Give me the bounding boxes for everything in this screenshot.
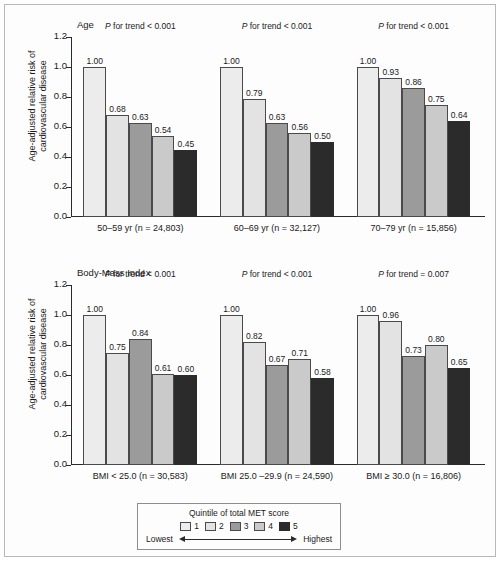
legend-items: 12345 bbox=[146, 521, 332, 531]
bar-quintile-4: 0.54 bbox=[152, 136, 175, 217]
y-axis-label-line1: Age-adjusted relative risk of bbox=[27, 50, 37, 161]
bar-quintile-5: 0.50 bbox=[311, 142, 334, 217]
bar-quintile-4: 0.80 bbox=[425, 345, 448, 465]
figure-frame: Age Age-adjusted relative risk of cardio… bbox=[4, 4, 496, 557]
bar-quintile-3: 0.63 bbox=[129, 123, 152, 218]
legend-item-2: 2 bbox=[205, 521, 224, 531]
bar-group-bmi-1: P for trend < 0.0011.000.820.670.710.58B… bbox=[220, 285, 334, 465]
y-axis-line bbox=[71, 285, 72, 465]
x-axis-group-label: 70–79 yr (n = 15,856) bbox=[343, 223, 485, 233]
legend-item-3: 3 bbox=[230, 521, 249, 531]
x-axis-group-label: 60–69 yr (n = 32,127) bbox=[206, 223, 348, 233]
bar-value-label: 0.71 bbox=[291, 348, 308, 358]
legend-scale: Lowest Highest bbox=[146, 534, 332, 544]
bar-value-label: 0.63 bbox=[269, 112, 286, 122]
bar-quintile-2: 0.75 bbox=[106, 353, 129, 466]
bar-value-label: 0.80 bbox=[428, 334, 445, 344]
bar-quintile-5: 0.64 bbox=[448, 121, 471, 217]
bar-quintile-4: 0.71 bbox=[288, 359, 311, 466]
bar-quintile-2: 0.79 bbox=[243, 99, 266, 218]
bar-quintile-3: 0.67 bbox=[266, 365, 289, 466]
y-tick-label: 0.6 bbox=[54, 368, 67, 379]
p-for-trend-annotation: P for trend < 0.001 bbox=[83, 269, 197, 279]
bar-value-label: 0.63 bbox=[132, 112, 149, 122]
panel-bmi: Body-Mass Index Age-adjusted relative ri… bbox=[5, 263, 497, 513]
y-tick-label: 0.2 bbox=[54, 428, 67, 439]
bars: 1.000.960.730.800.65 bbox=[357, 285, 471, 465]
x-axis-group-label: BMI 25.0 –29.9 (n = 24,590) bbox=[206, 471, 348, 481]
y-tick-label: 0.0 bbox=[54, 210, 67, 221]
bar-value-label: 0.75 bbox=[109, 342, 126, 352]
bar-quintile-2: 0.68 bbox=[106, 115, 129, 217]
bar-quintile-4: 0.75 bbox=[425, 105, 448, 218]
bar-group-age-2: P for trend < 0.0011.000.930.860.750.647… bbox=[357, 37, 471, 217]
y-tick-label: 0.8 bbox=[54, 90, 67, 101]
bar-group-bmi-2: P for trend = 0.0071.000.960.730.800.65B… bbox=[357, 285, 471, 465]
panel-age: Age Age-adjusted relative risk of cardio… bbox=[5, 9, 497, 265]
bar-quintile-2: 0.93 bbox=[379, 78, 402, 218]
bar-value-label: 0.60 bbox=[178, 364, 195, 374]
p-for-trend-annotation: P for trend < 0.001 bbox=[220, 21, 334, 31]
y-tick-label: 1.2 bbox=[54, 30, 67, 41]
x-axis-group-label: 50–59 yr (n = 24,803) bbox=[69, 223, 211, 233]
bar-quintile-1: 1.00 bbox=[220, 315, 243, 465]
bar-quintile-2: 0.82 bbox=[243, 342, 266, 465]
bar-value-label: 1.00 bbox=[360, 56, 377, 66]
bar-value-label: 0.93 bbox=[383, 67, 400, 77]
legend: Quintile of total MET score 12345 Lowest… bbox=[137, 503, 341, 550]
y-axis-label-line2: cardiovascular disease bbox=[38, 60, 48, 152]
y-tick-label: 0.8 bbox=[54, 338, 67, 349]
bar-value-label: 1.00 bbox=[87, 304, 104, 314]
legend-item-5: 5 bbox=[279, 521, 298, 531]
legend-item-label: 1 bbox=[194, 521, 199, 531]
bar-value-label: 1.00 bbox=[360, 304, 377, 314]
legend-highest-label: Highest bbox=[303, 534, 332, 544]
bar-value-label: 0.73 bbox=[405, 345, 422, 355]
bar-quintile-5: 0.58 bbox=[311, 378, 334, 465]
bar-quintile-5: 0.65 bbox=[448, 368, 471, 466]
x-axis-group-label: BMI < 25.0 (n = 30,583) bbox=[69, 471, 211, 481]
bar-value-label: 0.84 bbox=[132, 328, 149, 338]
legend-item-label: 2 bbox=[219, 521, 224, 531]
bar-quintile-3: 0.63 bbox=[266, 123, 289, 218]
legend-swatch-icon bbox=[279, 522, 290, 531]
bar-group-age-1: P for trend < 0.0011.000.790.630.560.506… bbox=[220, 37, 334, 217]
legend-item-4: 4 bbox=[254, 521, 273, 531]
bar-value-label: 0.79 bbox=[246, 88, 263, 98]
bar-quintile-1: 1.00 bbox=[83, 315, 106, 465]
bar-quintile-5: 0.60 bbox=[174, 375, 197, 465]
y-tick-label: 1.2 bbox=[54, 278, 67, 289]
legend-item-label: 5 bbox=[293, 521, 298, 531]
bars: 1.000.930.860.750.64 bbox=[357, 37, 471, 217]
bar-value-label: 1.00 bbox=[223, 304, 240, 314]
bar-value-label: 0.54 bbox=[155, 125, 172, 135]
y-axis-line bbox=[71, 37, 72, 217]
bars: 1.000.820.670.710.58 bbox=[220, 285, 334, 465]
plot-area-age: 0.00.20.40.60.81.01.2 P for trend < 0.00… bbox=[71, 37, 485, 217]
bar-value-label: 0.82 bbox=[246, 331, 263, 341]
legend-item-1: 1 bbox=[180, 521, 199, 531]
bar-quintile-3: 0.86 bbox=[402, 88, 425, 217]
bar-value-label: 0.75 bbox=[428, 94, 445, 104]
y-axis-label-bmi: Age-adjusted relative risk of cardiovasc… bbox=[27, 259, 49, 449]
bar-value-label: 1.00 bbox=[87, 56, 104, 66]
legend-lowest-label: Lowest bbox=[146, 534, 173, 544]
p-for-trend-annotation: P for trend < 0.001 bbox=[220, 269, 334, 279]
bar-group-bmi-0: P for trend < 0.0011.000.750.840.610.60B… bbox=[83, 285, 197, 465]
bar-quintile-1: 1.00 bbox=[357, 315, 380, 465]
y-tick-label: 0.2 bbox=[54, 180, 67, 191]
bar-value-label: 0.45 bbox=[178, 139, 195, 149]
bar-value-label: 0.64 bbox=[451, 110, 468, 120]
y-axis-label-line2: cardiovascular disease bbox=[38, 308, 48, 400]
double-arrow-icon bbox=[179, 535, 297, 544]
plot-area-bmi: 0.00.20.40.60.81.01.2 P for trend < 0.00… bbox=[71, 285, 485, 465]
bar-value-label: 0.86 bbox=[405, 77, 422, 87]
p-for-trend-annotation: P for trend < 0.001 bbox=[83, 21, 197, 31]
bars: 1.000.680.630.540.45 bbox=[83, 37, 197, 217]
bar-value-label: 0.96 bbox=[383, 310, 400, 320]
legend-swatch-icon bbox=[230, 522, 241, 531]
bar-value-label: 0.68 bbox=[109, 104, 126, 114]
legend-item-label: 3 bbox=[244, 521, 249, 531]
y-axis-label-line1: Age-adjusted relative risk of bbox=[27, 298, 37, 409]
bar-value-label: 1.00 bbox=[223, 56, 240, 66]
